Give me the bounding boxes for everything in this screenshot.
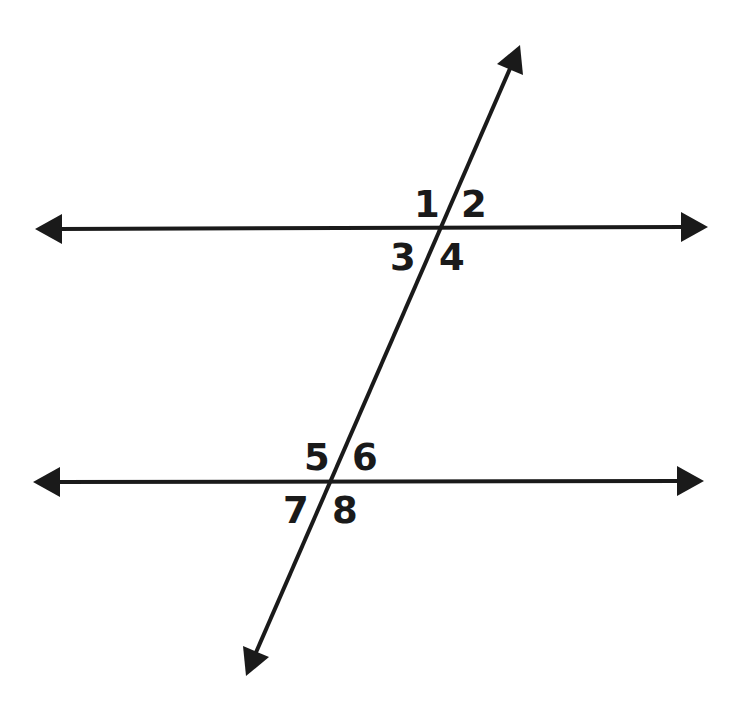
angle-label-7: 7 xyxy=(283,489,309,532)
angle-label-8: 8 xyxy=(332,489,358,532)
angle-label-5: 5 xyxy=(304,436,330,479)
lower-line-segment xyxy=(56,481,680,482)
angle-label-6: 6 xyxy=(352,436,378,479)
angle-label-3: 3 xyxy=(390,236,416,279)
angle-label-4: 4 xyxy=(439,236,465,279)
background xyxy=(0,0,744,718)
upper-line-segment xyxy=(58,227,684,229)
angle-label-2: 2 xyxy=(461,183,487,226)
angle-label-1: 1 xyxy=(414,183,440,226)
parallel-lines-transversal-diagram: 1 2 3 4 5 6 7 8 xyxy=(0,0,744,718)
